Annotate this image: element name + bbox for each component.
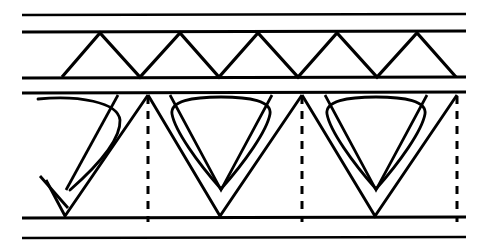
diagram-canvas: [0, 0, 495, 250]
rail-line-top-inner: [22, 31, 466, 32]
rail-line-lower-bottom: [22, 217, 466, 218]
band-diagram-svg: [0, 0, 495, 250]
rail-line-bottom-outer: [22, 237, 466, 238]
rail-line-upper-bottom: [22, 77, 466, 78]
rail-line-lower-top: [22, 92, 466, 93]
rail-line-top-outer: [22, 14, 466, 15]
